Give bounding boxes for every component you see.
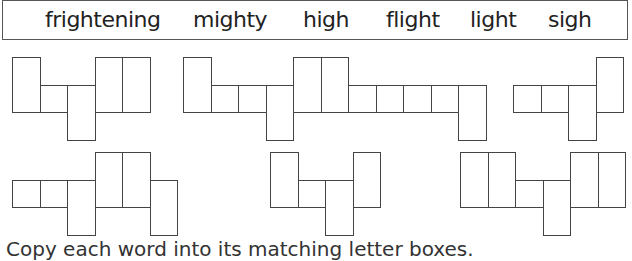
letter-box-tall[interactable] <box>183 57 212 113</box>
letter-box-tall[interactable] <box>488 152 517 208</box>
letter-box-short[interactable] <box>515 180 544 209</box>
letter-box-short[interactable] <box>40 85 69 114</box>
letter-box-tall[interactable] <box>270 152 299 208</box>
letter-box-desc[interactable] <box>543 180 572 236</box>
letter-box-short[interactable] <box>541 85 570 114</box>
letter-box-short[interactable] <box>40 180 69 209</box>
letter-box-desc[interactable] <box>67 180 96 236</box>
letter-box-tall[interactable] <box>460 152 489 208</box>
letter-box-desc[interactable] <box>568 85 597 141</box>
letter-box-tall[interactable] <box>293 57 322 113</box>
letter-box-desc[interactable] <box>458 85 487 141</box>
word-mighty: mighty <box>193 7 267 32</box>
letter-box-short[interactable] <box>348 85 377 114</box>
letter-box-desc[interactable] <box>266 85 295 141</box>
letter-box-short[interactable] <box>431 85 460 114</box>
letter-box-desc[interactable] <box>150 180 179 236</box>
letter-box-short[interactable] <box>298 180 327 209</box>
letter-box-short[interactable] <box>403 85 432 114</box>
word-high: high <box>303 7 349 32</box>
letter-box-desc[interactable] <box>67 85 96 141</box>
word-flight: flight <box>386 7 440 32</box>
letter-box-short[interactable] <box>513 85 542 114</box>
word-bank: frighteningmightyhighflightlightsigh <box>2 0 628 40</box>
letter-box-short[interactable] <box>12 180 41 209</box>
letter-box-tall[interactable] <box>570 152 599 208</box>
letter-box-tall[interactable] <box>321 57 350 113</box>
letter-box-tall[interactable] <box>95 57 124 113</box>
letter-box-tall[interactable] <box>12 57 41 113</box>
word-frightening: frightening <box>45 7 160 32</box>
word-sigh: sigh <box>548 7 591 32</box>
letter-box-short[interactable] <box>211 85 240 114</box>
letter-box-short[interactable] <box>376 85 405 114</box>
letter-box-tall[interactable] <box>122 57 151 113</box>
word-light: light <box>470 7 516 32</box>
letter-box-tall[interactable] <box>95 152 124 208</box>
letter-box-tall[interactable] <box>596 57 625 113</box>
letter-box-tall[interactable] <box>353 152 382 208</box>
letter-box-short[interactable] <box>238 85 267 114</box>
letter-box-desc[interactable] <box>325 180 354 236</box>
letter-box-tall[interactable] <box>122 152 151 208</box>
instructions-text: Copy each word into its matching letter … <box>6 237 474 261</box>
letter-box-tall[interactable] <box>598 152 627 208</box>
